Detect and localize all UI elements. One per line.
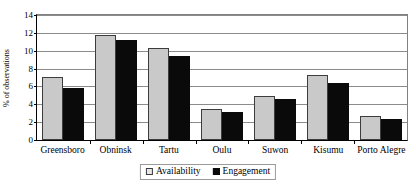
bar-group [90,15,143,140]
x-axis-label-4: Suwon [249,145,302,156]
bar-availability[interactable] [201,109,222,140]
x-tick-mark [354,140,355,144]
bar-group [143,15,196,140]
x-tick-mark [90,140,91,144]
bars-layer [37,15,407,140]
bar-engagement[interactable] [169,56,190,140]
bar-availability[interactable] [254,96,275,140]
x-tick-mark [143,140,144,144]
y-axis-title: % of observations [2,38,16,118]
x-axis-label-2: Tartu [142,145,195,156]
legend-item-availability[interactable]: Availability [146,166,201,177]
legend-label: Availability [156,166,201,177]
x-axis-label-6: Porto Alegre [355,145,408,156]
y-tick-label: 10 [24,46,33,55]
bar-group [248,15,301,140]
y-tick-label: 6 [29,82,34,91]
x-tick-mark [248,140,249,144]
x-axis-label-0: Greensboro [36,145,89,156]
x-tick-mark [196,140,197,144]
bar-group [196,15,249,140]
bar-engagement[interactable] [275,99,296,140]
bar-group [301,15,354,140]
bar-engagement[interactable] [381,119,402,140]
bar-availability[interactable] [42,77,63,140]
y-tick-label: 8 [29,64,34,73]
bar-chart: % of observations 02468101214 Greensboro… [0,0,416,186]
legend-swatch-availability-icon [146,168,153,175]
x-tick-mark [301,140,302,144]
x-axis-label-5: Kisumu [302,145,355,156]
legend-swatch-engagement-icon [213,168,220,175]
bar-group [354,15,407,140]
legend-label: Engagement [223,166,270,177]
x-axis-label-1: Obninsk [89,145,142,156]
bar-availability[interactable] [307,75,328,140]
x-axis-label-3: Oulu [195,145,248,156]
y-tick-label: 12 [24,28,33,37]
bar-availability[interactable] [95,35,116,140]
bar-availability[interactable] [360,116,381,140]
y-tick-label: 14 [24,11,33,20]
bar-engagement[interactable] [63,88,84,140]
bar-engagement[interactable] [116,40,137,140]
y-tick-label: 0 [29,136,34,145]
bar-group [37,15,90,140]
legend-item-engagement[interactable]: Engagement [213,166,270,177]
bar-engagement[interactable] [328,83,349,140]
legend: AvailabilityEngagement [140,164,276,180]
y-tick-label: 2 [29,118,34,127]
bar-engagement[interactable] [222,112,243,140]
y-tick-mark [34,140,37,141]
bar-availability[interactable] [148,48,169,140]
y-tick-label: 4 [29,100,34,109]
x-axis-labels: GreensboroObninskTartuOuluSuwonKisumuPor… [36,145,408,156]
plot-area: 02468101214 [36,14,408,141]
